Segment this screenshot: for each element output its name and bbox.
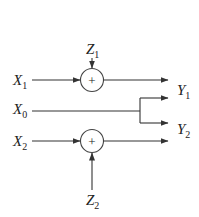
svg-text:Z1: Z1 — [86, 41, 99, 60]
y2-label: Y2 — [177, 121, 190, 140]
svg-text:Y2: Y2 — [177, 121, 190, 140]
adder-2-node: + — [81, 130, 104, 153]
svg-text:Y1: Y1 — [177, 82, 190, 101]
plus-icon: + — [88, 73, 95, 88]
adder-1-node: + — [81, 69, 104, 92]
y1-label: Y1 — [177, 82, 190, 101]
x1-label: X1 — [12, 72, 27, 91]
channel-diagram: Z1 X1 + Y1 X0 Y2 X2 + Z2 — [0, 0, 199, 217]
svg-text:Z2: Z2 — [86, 192, 99, 211]
z2-label: Z2 — [86, 192, 99, 211]
x2-label: X2 — [12, 133, 27, 152]
plus-icon: + — [88, 134, 95, 149]
svg-text:X0: X0 — [12, 101, 27, 120]
z1-label: Z1 — [86, 41, 99, 60]
svg-text:X1: X1 — [12, 72, 27, 91]
svg-text:X2: X2 — [12, 133, 27, 152]
x0-label: X0 — [12, 101, 27, 120]
